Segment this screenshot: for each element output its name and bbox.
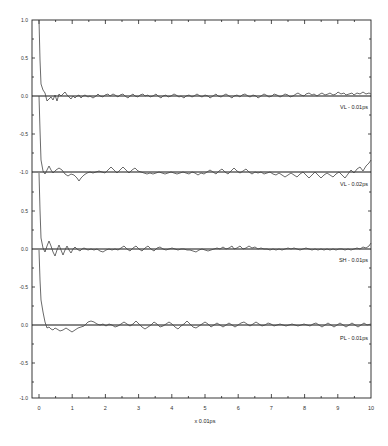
x-tick-label: 10 — [368, 405, 374, 411]
series-curves — [39, 20, 371, 332]
x-tick-label: 9 — [336, 405, 339, 411]
y-tick-label: 0.0 — [21, 246, 28, 252]
series-label-vl-001: VL - 0.01ps — [340, 104, 368, 110]
x-tick-label: 0 — [37, 405, 40, 411]
series-labels: VL - 0.01ps VL - 0.02ps SH - 0.01ps PL -… — [339, 104, 368, 341]
curve-sh-001 — [39, 173, 371, 256]
curve-vl-001 — [39, 20, 371, 101]
y-tick-label: -0.5 — [19, 284, 28, 290]
series-label-vl-002: VL - 0.02ps — [340, 181, 368, 187]
x-ticks — [39, 20, 354, 398]
y-tick-label: -0.5 — [19, 131, 28, 137]
y-tick-label: -1.0 — [19, 169, 28, 175]
curve-vl-002 — [39, 96, 371, 181]
chart: 1.0 0.5 0.0 -0.5 -1.0 0.5 0.0 -0.5 0.0 -… — [0, 0, 388, 446]
x-axis-unit-label: x 0.01ps — [195, 418, 216, 424]
x-tick-label: 1 — [71, 405, 74, 411]
x-tick-label: 6 — [237, 405, 240, 411]
x-tick-label: 4 — [170, 405, 173, 411]
y-axis: 1.0 0.5 0.0 -0.5 -1.0 0.5 0.0 -0.5 0.0 -… — [19, 17, 28, 401]
baselines — [32, 96, 371, 325]
y-tick-label: -0.5 — [19, 360, 28, 366]
x-tick-label: 7 — [270, 405, 273, 411]
curve-pl-001 — [39, 250, 371, 332]
x-tick-label: 8 — [303, 405, 306, 411]
y-tick-label: 0.0 — [21, 322, 28, 328]
plot-frame — [32, 20, 371, 398]
y-tick-label: 0.5 — [21, 55, 28, 61]
x-tick-label: 3 — [137, 405, 140, 411]
y-tick-label: 0.0 — [21, 93, 28, 99]
series-label-sh-001: SH - 0.01ps — [339, 257, 368, 263]
x-tick-label: 5 — [203, 405, 206, 411]
x-tick-label: 2 — [104, 405, 107, 411]
y-tick-label: 1.0 — [21, 17, 28, 23]
y-ticks — [32, 39, 371, 382]
y-tick-label: -1.0 — [19, 395, 28, 401]
y-tick-label: 0.5 — [21, 208, 28, 214]
series-label-pl-001: PL - 0.01ps — [340, 335, 368, 341]
x-axis: 0 1 2 3 4 5 6 7 8 9 10 x 0.01ps — [37, 405, 374, 424]
